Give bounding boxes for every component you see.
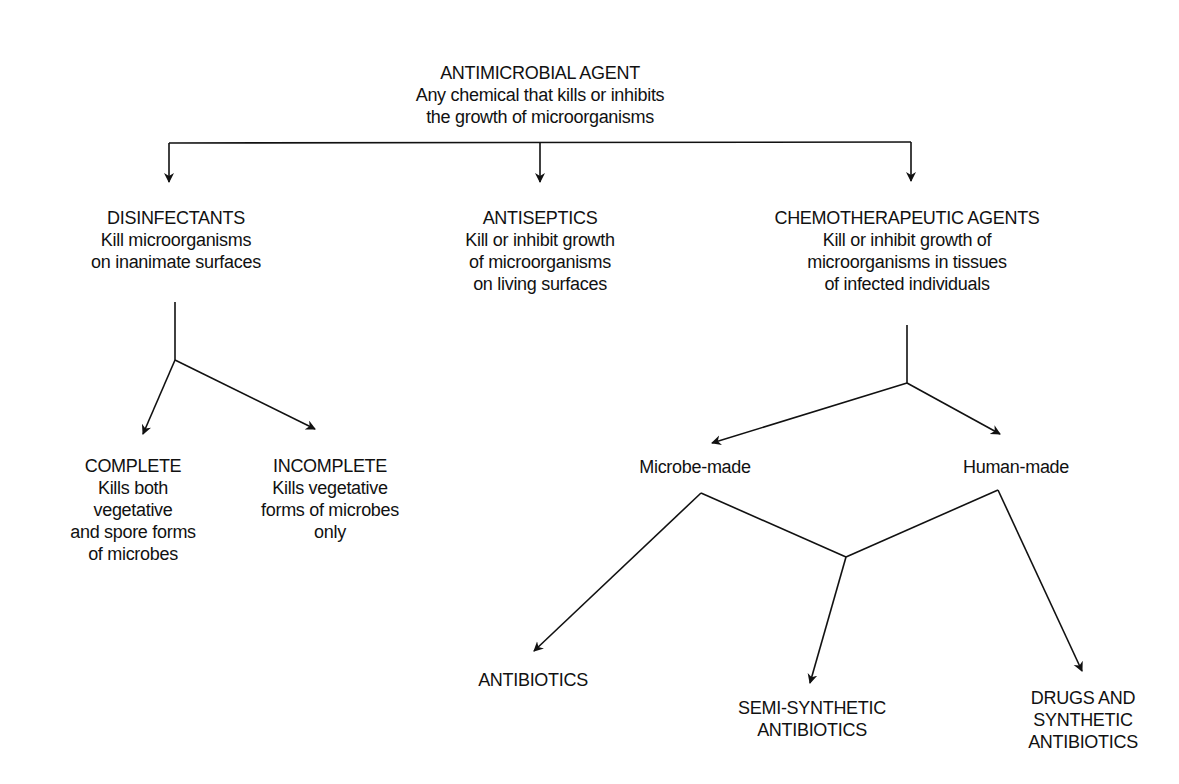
node-desc: of infected individuals bbox=[774, 273, 1039, 295]
node-antibiotics: ANTIBIOTICS bbox=[478, 669, 588, 691]
node-antiseptics: ANTISEPTICS Kill or inhibit growth of mi… bbox=[465, 207, 614, 295]
node-title: ANTIBIOTICS bbox=[1028, 731, 1138, 753]
node-title: ANTIMICROBIAL AGENT bbox=[416, 62, 665, 84]
node-desc: Kill or inhibit growth of bbox=[774, 229, 1039, 251]
node-drugs-and-synthetic-antibiotics: DRUGS AND SYNTHETIC ANTIBIOTICS bbox=[1028, 687, 1138, 753]
node-semi-synthetic-antibiotics: SEMI-SYNTHETIC ANTIBIOTICS bbox=[738, 697, 886, 741]
node-title: SEMI-SYNTHETIC bbox=[738, 697, 886, 719]
node-antimicrobial-agent: ANTIMICROBIAL AGENT Any chemical that ki… bbox=[416, 62, 665, 128]
node-desc: Kills vegetative bbox=[261, 477, 399, 499]
node-title: Microbe-made bbox=[639, 456, 750, 478]
node-desc: Kills both bbox=[70, 477, 196, 499]
node-disinfectants: DISINFECTANTS Kill microorganisms on ina… bbox=[91, 207, 261, 273]
node-title: ANTIBIOTICS bbox=[738, 719, 886, 741]
node-desc: Kill or inhibit growth bbox=[465, 229, 614, 251]
node-desc: microorganisms in tissues bbox=[774, 251, 1039, 273]
node-title: DRUGS AND bbox=[1028, 687, 1138, 709]
node-desc: only bbox=[261, 521, 399, 543]
node-chemotherapeutic-agents: CHEMOTHERAPEUTIC AGENTS Kill or inhibit … bbox=[774, 207, 1039, 295]
node-title: SYNTHETIC bbox=[1028, 709, 1138, 731]
node-title: ANTISEPTICS bbox=[465, 207, 614, 229]
node-title: ANTIBIOTICS bbox=[478, 669, 588, 691]
node-desc: and spore forms bbox=[70, 521, 196, 543]
node-desc: the growth of microorganisms bbox=[416, 106, 665, 128]
node-title: Human-made bbox=[963, 456, 1069, 478]
node-title: CHEMOTHERAPEUTIC AGENTS bbox=[774, 207, 1039, 229]
node-human-made: Human-made bbox=[963, 456, 1069, 478]
node-desc: on inanimate surfaces bbox=[91, 251, 261, 273]
node-desc: forms of microbes bbox=[261, 499, 399, 521]
node-desc: Kill microorganisms bbox=[91, 229, 261, 251]
node-desc: Any chemical that kills or inhibits bbox=[416, 84, 665, 106]
node-desc: on living surfaces bbox=[465, 273, 614, 295]
node-desc: vegetative bbox=[70, 499, 196, 521]
node-microbe-made: Microbe-made bbox=[639, 456, 750, 478]
node-title: COMPLETE bbox=[70, 455, 196, 477]
node-incomplete: INCOMPLETE Kills vegetative forms of mic… bbox=[261, 455, 399, 543]
node-title: DISINFECTANTS bbox=[91, 207, 261, 229]
node-complete: COMPLETE Kills both vegetative and spore… bbox=[70, 455, 196, 565]
node-desc: of microbes bbox=[70, 543, 196, 565]
node-desc: of microorganisms bbox=[465, 251, 614, 273]
node-title: INCOMPLETE bbox=[261, 455, 399, 477]
